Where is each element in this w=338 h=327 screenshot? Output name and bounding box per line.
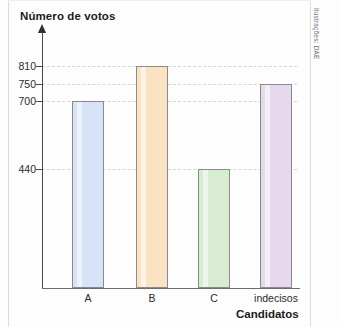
y-tick-label-810: 810 xyxy=(18,60,36,72)
y-tick-700 xyxy=(36,101,43,102)
y-tick-label-700: 700 xyxy=(18,95,36,107)
y-tick-label-750: 750 xyxy=(18,78,36,90)
y-tick-440 xyxy=(36,169,43,170)
x-axis-title: Candidatos xyxy=(236,308,299,320)
bar-a xyxy=(72,101,104,288)
y-axis-line xyxy=(42,32,43,289)
bar-highlight xyxy=(77,102,82,287)
y-axis-title: Número de votos xyxy=(20,10,115,22)
y-tick-810 xyxy=(36,66,43,67)
gridline-750 xyxy=(42,84,297,85)
bar-b xyxy=(136,66,168,288)
x-axis-line xyxy=(42,288,300,289)
chart-page: Número de votos 810 750 700 440 A B C xyxy=(0,0,338,327)
x-tick-label-b: B xyxy=(136,292,168,304)
y-tick-label-440: 440 xyxy=(18,163,36,175)
bar-highlight xyxy=(265,85,270,287)
x-tick-label-indecisos: indecisos xyxy=(244,292,308,304)
bar-highlight xyxy=(141,67,146,287)
y-tick-750 xyxy=(36,84,43,85)
bar-c xyxy=(198,169,230,288)
gridline-810 xyxy=(42,66,297,67)
bar-highlight xyxy=(203,170,208,287)
bar-indecisos xyxy=(260,84,292,288)
x-tick-label-a: A xyxy=(72,292,104,304)
x-tick-label-c: C xyxy=(198,292,230,304)
illustration-credit: Ilustrações: DAE xyxy=(313,8,320,60)
bar-chart: Número de votos 810 750 700 440 A B C xyxy=(0,0,338,327)
